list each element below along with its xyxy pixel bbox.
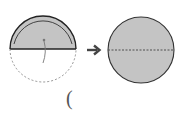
right-circle-figure	[108, 17, 174, 83]
center-dot	[43, 39, 46, 42]
dashed-lower-semicircle	[10, 49, 76, 82]
right-arrow-icon	[87, 46, 100, 55]
diagram-canvas	[0, 0, 185, 116]
answer-parenthesis: (	[66, 88, 73, 108]
left-semicircle-figure	[10, 16, 76, 82]
